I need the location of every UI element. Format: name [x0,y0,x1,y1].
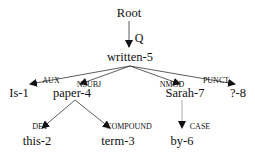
node-by: by-6 [171,134,194,149]
dependency-tree: Root Q written-5 AUX NSUBJ NMOD PUNCT Is… [0,0,255,164]
edge-label-det: DET [32,122,48,131]
node-root: Root [117,6,141,21]
edge-label-case: CASE [190,122,210,131]
edge-label-q: Q [135,31,144,46]
edge-label-aux: AUX [42,76,59,85]
node-paper: paper-4 [53,86,91,101]
node-written: written-5 [107,50,153,65]
node-is: Is-1 [9,86,28,101]
node-sarah: Sarah-7 [166,86,205,101]
edge-label-compound: COMPOUND [106,122,152,131]
node-punct: ?-8 [230,86,246,101]
node-this: this-2 [23,134,51,149]
node-term: term-3 [101,134,134,149]
edge-label-punct: PUNCT [203,76,229,85]
